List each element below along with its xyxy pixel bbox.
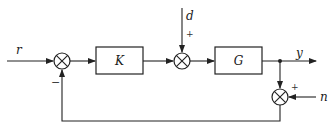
- summing-junction-1: [54, 53, 70, 69]
- block-diagram: r K d + G y + n: [0, 0, 332, 130]
- output-label: y: [295, 46, 303, 60]
- controller-label: K: [114, 54, 125, 68]
- feedback-sign: −: [51, 76, 60, 89]
- reference-label: r: [16, 43, 23, 57]
- plant-label: G: [234, 54, 244, 68]
- summing-junction-3: [272, 89, 288, 105]
- disturbance-label: d: [186, 9, 194, 23]
- feedback-path: [62, 70, 280, 121]
- controller-block: K: [96, 47, 143, 74]
- noise-sign: +: [291, 82, 299, 92]
- noise-label: n: [320, 90, 328, 104]
- summing-junction-2: [174, 53, 190, 69]
- disturbance-sign: +: [186, 29, 194, 39]
- plant-block: G: [215, 47, 262, 74]
